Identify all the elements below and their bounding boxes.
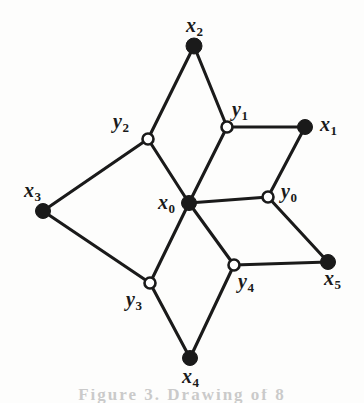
node-label-x5: x5 (324, 268, 341, 288)
node-label-base-y4: y (238, 270, 247, 292)
figure-caption-partial: Figure 3. Drawing of 8 (0, 389, 364, 403)
node-label-sub-y4: 4 (247, 280, 254, 295)
node-label-base-x2: x (186, 14, 196, 36)
graph-node-y4 (229, 260, 240, 271)
node-label-base-x0: x (158, 191, 168, 213)
graph-node-y1 (222, 122, 233, 133)
node-label-base-x4: x (182, 365, 192, 387)
graph-figure: x0x1x2x3x4x5y0y1y2y3y4 Figure 3. Drawing… (0, 0, 364, 403)
node-label-y2: y2 (113, 111, 128, 131)
graph-edge (43, 139, 148, 211)
node-label-sub-x5: 5 (335, 277, 342, 292)
node-label-sub-x2: 2 (197, 24, 204, 39)
graph-edge (189, 127, 227, 203)
node-label-base-y3: y (126, 288, 135, 310)
node-label-sub-x1: 1 (331, 123, 338, 138)
graph-edge (234, 262, 328, 265)
graph-node-x4 (183, 351, 198, 366)
figure-caption-text: Figure 3. Drawing of 8 (0, 389, 364, 403)
node-label-x1: x1 (320, 114, 337, 134)
node-label-base-y0: y (281, 180, 290, 202)
node-label-x0: x0 (158, 192, 175, 212)
graph-edge (268, 197, 328, 262)
node-label-base-y1: y (232, 98, 241, 120)
node-label-x3: x3 (24, 180, 41, 200)
node-label-x2: x2 (186, 15, 203, 35)
graph-node-x3 (36, 204, 51, 219)
graph-edge (150, 283, 190, 358)
graph-edge (190, 265, 234, 358)
graph-node-y2 (143, 134, 154, 145)
node-label-base-x1: x (320, 113, 330, 135)
node-label-sub-x3: 3 (35, 189, 42, 204)
graph-edge (194, 46, 227, 127)
graph-node-x0 (182, 196, 197, 211)
node-label-y3: y3 (126, 289, 141, 309)
node-label-y4: y4 (238, 271, 253, 291)
graph-node-x2 (186, 38, 202, 54)
node-label-base-y2: y (113, 110, 122, 132)
node-label-y1: y1 (232, 99, 247, 119)
node-label-sub-y1: 1 (241, 108, 248, 123)
graph-edge (189, 197, 268, 203)
graph-edge (43, 211, 150, 283)
node-label-base-x5: x (324, 267, 334, 289)
graph-canvas (0, 0, 364, 403)
node-label-sub-y0: 0 (290, 190, 297, 205)
node-label-y0: y0 (281, 181, 296, 201)
node-label-sub-x0: 0 (169, 201, 176, 216)
graph-edge (189, 203, 234, 265)
node-label-x4: x4 (182, 366, 199, 386)
node-label-base-x3: x (24, 179, 34, 201)
graph-node-x1 (298, 120, 313, 135)
node-label-sub-y2: 2 (122, 120, 129, 135)
graph-node-y3 (145, 278, 156, 289)
graph-edge (148, 46, 194, 139)
graph-node-y0 (263, 192, 274, 203)
node-label-sub-x4: 4 (193, 375, 200, 390)
node-label-sub-y3: 3 (135, 298, 142, 313)
